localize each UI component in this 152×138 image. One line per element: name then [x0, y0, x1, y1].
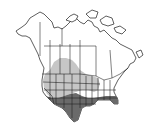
range-map: [0, 0, 152, 138]
arctic-island: [100, 16, 114, 26]
north-america-map: [0, 0, 152, 138]
newfoundland: [136, 50, 143, 58]
arctic-island: [86, 10, 98, 18]
arctic-island: [114, 26, 126, 34]
